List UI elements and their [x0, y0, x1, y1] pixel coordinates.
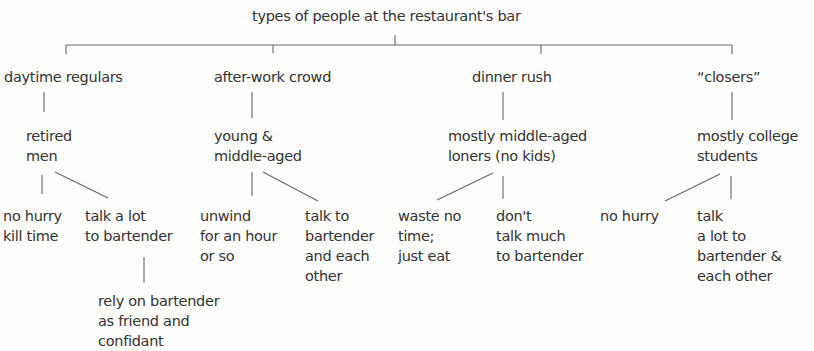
group-daytime-regulars: daytime regulars	[4, 67, 123, 87]
who-dinner: mostly middle-aged loners (no kids)	[448, 126, 587, 166]
trait-dinner-1: waste no time; just eat	[398, 206, 461, 266]
diagram-title: types of people at the restaurant's bar	[252, 6, 521, 26]
trait-closers-2: talk a lot to bartender & each other	[697, 206, 782, 286]
trait-after-work-2: talk to bartender and each other	[305, 206, 374, 286]
who-after-work: young & middle-aged	[214, 126, 302, 166]
trait-daytime-1: no hurry kill time	[3, 206, 62, 246]
trait-after-work-1: unwind for an hour or so	[200, 206, 277, 266]
group-after-work-crowd: after-work crowd	[214, 67, 331, 87]
group-closers: “closers”	[697, 67, 760, 87]
sub-daytime: rely on bartender as friend and confidan…	[98, 291, 219, 351]
trait-dinner-2: don't talk much to bartender	[496, 206, 584, 266]
trait-closers-1: no hurry	[600, 206, 659, 226]
trait-daytime-2: talk a lot to bartender	[85, 206, 173, 246]
who-daytime: retired men	[26, 126, 72, 166]
group-dinner-rush: dinner rush	[472, 67, 552, 87]
who-closers: mostly college students	[697, 126, 798, 166]
